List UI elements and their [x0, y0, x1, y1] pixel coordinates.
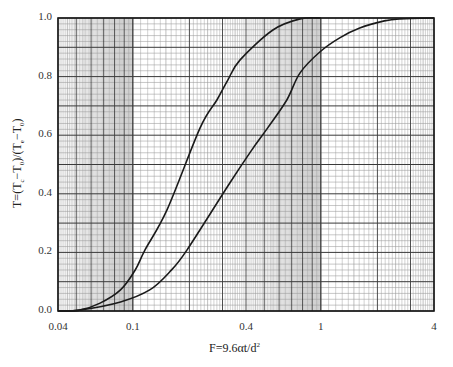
x-axis-label: F=9.6αt/d2 [209, 341, 260, 356]
ylabel-sub: 0 [18, 122, 26, 126]
y-tick-label: 0.0 [22, 303, 52, 315]
ylabel-sub: c [18, 179, 26, 182]
x-tick-label: 4 [414, 320, 453, 332]
ylabel-part: −T [10, 126, 24, 140]
x-tick-label: 0.04 [38, 320, 78, 332]
chart-canvas [0, 0, 453, 367]
grid-major [58, 18, 434, 311]
xlabel-base: F=9.6αt/d [209, 341, 256, 355]
y-tick-label: 1.0 [22, 10, 52, 22]
y-tick-label: 0.8 [22, 69, 52, 81]
ylabel-sub: e [18, 140, 26, 143]
y-axis-label: T=(Tc−T0)/(Te−T0) [10, 93, 26, 233]
y-tick-label: 0.6 [22, 127, 52, 139]
ylabel-sub: 0 [18, 162, 26, 166]
y-tick-label: 0.4 [22, 186, 52, 198]
ylabel-part: T=(T [10, 183, 24, 208]
xlabel-sup: 2 [256, 341, 260, 349]
ylabel-part: ) [10, 118, 24, 122]
y-tick-label: 0.2 [22, 244, 52, 256]
x-tick-label: 0.1 [113, 320, 153, 332]
ylabel-part: −T [10, 165, 24, 179]
x-tick-label: 0.4 [226, 320, 266, 332]
ylabel-part: )/(T [10, 143, 24, 162]
x-tick-label: 1 [301, 320, 341, 332]
